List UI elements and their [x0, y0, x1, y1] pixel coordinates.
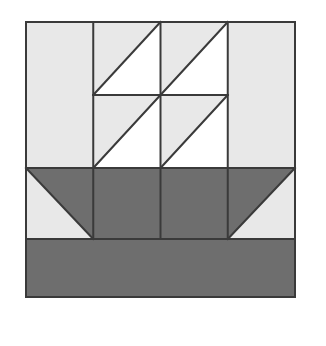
patch-r2c4-background: [228, 95, 295, 168]
patch-r3c2-hull: [93, 168, 160, 239]
patch-r4-water: [26, 239, 295, 297]
patch-r1c1-background: [26, 22, 93, 95]
patch-r2c1-background: [26, 95, 93, 168]
patch-r3c3-hull: [161, 168, 228, 239]
patch-r1c4-background: [228, 22, 295, 95]
quilt-block-canvas: [0, 0, 326, 346]
sailboat-quilt-block-svg: [0, 0, 326, 346]
